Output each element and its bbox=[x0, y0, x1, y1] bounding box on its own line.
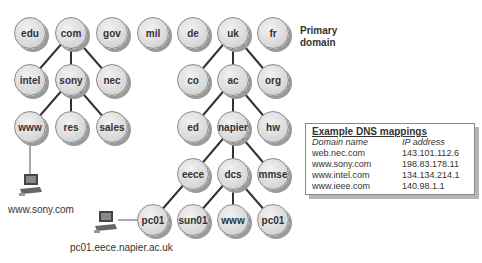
table-row: www.intel.com134.134.214.1 bbox=[312, 170, 468, 181]
domain-node-nec: nec bbox=[96, 64, 128, 96]
domain-node-pc01: pc01 bbox=[257, 204, 289, 236]
primary-domain-label: Primary domain bbox=[300, 25, 337, 49]
domain-cell: web.nec.com bbox=[312, 148, 402, 159]
domain-node-sony: sony bbox=[55, 64, 87, 96]
domain-node-com: com bbox=[55, 17, 87, 49]
computer-label-sony: www.sony.com bbox=[8, 204, 74, 215]
domain-node-org: org bbox=[257, 64, 289, 96]
domain-node-res: res bbox=[55, 111, 87, 143]
domain-node-dcs: dcs bbox=[217, 158, 249, 190]
primary-label-line1: Primary bbox=[300, 25, 337, 37]
primary-label-line2: domain bbox=[300, 37, 337, 49]
computer-label-pc01: pc01.eece.napier.ac.uk bbox=[70, 242, 173, 253]
dns-hierarchy-diagram: educomgovmildeukfrintelsonyneccoacorgwww… bbox=[0, 0, 482, 263]
computer-icon bbox=[18, 173, 44, 197]
domain-node-www: www bbox=[217, 204, 249, 236]
domain-node-co: co bbox=[177, 64, 209, 96]
domain-node-www: www bbox=[14, 111, 46, 143]
ip-cell: 134.134.214.1 bbox=[402, 170, 460, 181]
domain-node-gov: gov bbox=[96, 17, 128, 49]
domain-node-ed: ed bbox=[177, 111, 209, 143]
computer-icon bbox=[93, 210, 119, 234]
domain-node-mil: mil bbox=[137, 17, 169, 49]
domain-node-sales: sales bbox=[96, 111, 128, 143]
ip-cell: 143.101.112.6 bbox=[402, 148, 459, 159]
domain-node-intel: intel bbox=[14, 64, 46, 96]
header-ip: IP address bbox=[402, 137, 445, 148]
domain-node-sun01: sun01 bbox=[177, 204, 209, 236]
domain-cell: www.sony.com bbox=[312, 159, 402, 170]
table-header: Domain name IP address bbox=[312, 137, 468, 148]
domain-node-ac: ac bbox=[217, 64, 249, 96]
domain-node-mmse: mmse bbox=[257, 158, 289, 190]
domain-node-hw: hw bbox=[257, 111, 289, 143]
domain-node-de: de bbox=[177, 17, 209, 49]
ip-cell: 140.98.1.1 bbox=[402, 181, 445, 192]
table-row: web.nec.com143.101.112.6 bbox=[312, 148, 468, 159]
domain-node-napier: napier bbox=[217, 111, 249, 143]
domain-node-fr: fr bbox=[257, 17, 289, 49]
header-domain: Domain name bbox=[312, 137, 402, 148]
domain-node-uk: uk bbox=[217, 17, 249, 49]
dns-mappings-table: Example DNS mappings Domain name IP addr… bbox=[305, 123, 475, 195]
domain-node-eece: eece bbox=[177, 158, 209, 190]
domain-cell: www.intel.com bbox=[312, 170, 402, 181]
domain-cell: www.ieee.com bbox=[312, 181, 402, 192]
table-row: www.ieee.com140.98.1.1 bbox=[312, 181, 468, 192]
table-row: www.sony.com198.83.178.11 bbox=[312, 159, 468, 170]
domain-node-edu: edu bbox=[14, 17, 46, 49]
ip-cell: 198.83.178.11 bbox=[402, 159, 459, 170]
domain-node-pc01: pc01 bbox=[137, 204, 169, 236]
table-title: Example DNS mappings bbox=[312, 126, 468, 137]
